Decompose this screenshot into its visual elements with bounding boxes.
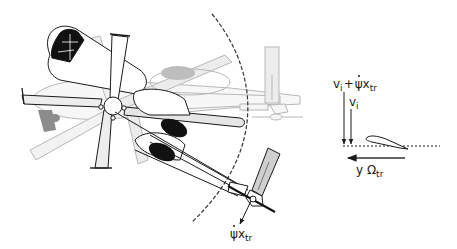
tail-fin — [252, 148, 280, 196]
diagram-canvas — [0, 0, 457, 249]
helicopter-yaw-diagram: ψxtr vi+ψxtr vi y Ωtr — [0, 0, 457, 249]
rotor-hub — [104, 97, 122, 115]
label-total-inflow: vi+ψxtr — [333, 78, 377, 93]
label-induced-inflow: vi — [349, 96, 359, 111]
label-rotational-velocity: y Ωtr — [356, 164, 383, 179]
psi-dot-symbol: ψ — [230, 228, 238, 240]
airfoil — [366, 136, 408, 149]
label-tail-velocity: ψxtr — [230, 228, 252, 243]
psi-dot-symbol: ψ — [355, 78, 363, 90]
tail-velocity-arrow — [240, 201, 251, 224]
main-helicopter — [22, 26, 280, 212]
